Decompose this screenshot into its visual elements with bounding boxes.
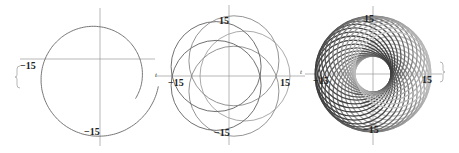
tick-label-left: −15: [168, 77, 184, 88]
axis-label-t: t: [300, 68, 303, 76]
tick-label-bottom: −15: [214, 127, 230, 138]
tick-label-bottom: −15: [363, 124, 379, 135]
axis-label-t: t: [155, 71, 158, 79]
tick-label-right: 15: [280, 77, 290, 88]
tick-label-left: −15: [313, 75, 329, 86]
tick-label-bottom: −15: [84, 126, 100, 137]
brace-icon: [440, 62, 445, 82]
tick-label-top: 15: [219, 15, 229, 26]
figure-canvas: −15 −15 t 15 15 −15 −15 t 15 15 −15 −15: [0, 0, 459, 153]
tick-label-top: 15: [364, 13, 374, 24]
panel-1: −15 −15 t: [15, 8, 158, 146]
panel-3: 15 15 −15 −15: [305, 6, 445, 145]
tick-label-right: 15: [422, 74, 432, 85]
tick-label-left: −15: [20, 60, 36, 71]
panel-2: 15 15 −15 −15 t: [155, 5, 305, 145]
